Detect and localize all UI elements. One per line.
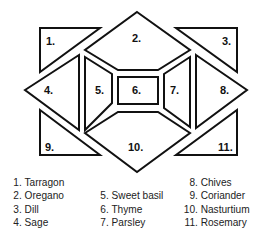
bed-number-label: 2. — [132, 32, 141, 44]
legend-item: 3. Dill — [13, 203, 64, 216]
legend-plant-name: Dill — [25, 203, 39, 215]
legend-column-2: 5. Sweet basil 6. Thyme 7. Parsley — [100, 176, 172, 229]
legend-item: 7. Parsley — [100, 216, 163, 229]
legend-plant-name: Parsley — [112, 216, 146, 228]
bed-number-label: 3. — [222, 35, 231, 47]
legend-number: 4. — [13, 216, 22, 229]
legend-item: 11. Rosemary — [182, 216, 250, 229]
legend-plant-name: Nasturtium — [201, 203, 250, 215]
legend-number: 7. — [100, 216, 109, 229]
legend-plant-name: Tarragon — [24, 176, 64, 188]
legend-plant-name: Sweet basil — [112, 189, 164, 201]
legend-item: 6. Thyme — [100, 203, 163, 216]
legend-number: 2. — [13, 189, 22, 202]
legend-item: 1. Tarragon — [13, 176, 64, 189]
legend-number: 8. — [182, 176, 198, 189]
legend-plant-name: Thyme — [111, 203, 142, 215]
garden-bed-10: 10. — [85, 112, 190, 172]
bed-number-label: 1. — [46, 35, 55, 47]
legend-plant-name: Chives — [201, 176, 232, 188]
garden-bed-7: 7. — [164, 57, 190, 127]
legend-item: 9. Coriander — [182, 189, 250, 202]
legend-plant-name: Coriander — [201, 189, 245, 201]
bed-number-label: 10. — [128, 141, 143, 153]
legend-number: 11. — [182, 216, 198, 229]
legend-number: 6. — [100, 203, 109, 216]
legend-item: 2. Oregano — [13, 189, 64, 202]
garden-bed-2: 2. — [85, 12, 190, 70]
garden-bed-8: 8. — [196, 55, 247, 128]
plant-legend: 1. Tarragon 2. Oregano 3. Dill 4. Sage 5… — [0, 176, 265, 245]
bed-number-label: 7. — [170, 84, 179, 96]
legend-plant-name: Oregano — [25, 189, 64, 201]
garden-bed-6: 6. — [118, 77, 158, 104]
legend-item — [100, 176, 163, 189]
legend-number: 1. — [13, 176, 22, 189]
legend-plant-name: Rosemary — [201, 216, 247, 228]
bed-number-label: 8. — [220, 84, 229, 96]
legend-column-1: 1. Tarragon 2. Oregano 3. Dill 4. Sage — [13, 176, 71, 229]
bed-number-label: 6. — [132, 84, 141, 96]
legend-item: 10. Nasturtium — [182, 203, 250, 216]
legend-number: 3. — [13, 203, 22, 216]
legend-item: 5. Sweet basil — [100, 189, 163, 202]
legend-column-3: 8. Chives 9. Coriander 10. Nasturtium 11… — [182, 176, 259, 229]
legend-number: 9. — [182, 189, 198, 202]
legend-item: 4. Sage — [13, 216, 64, 229]
legend-item: 8. Chives — [182, 176, 250, 189]
bed-number-label: 4. — [44, 84, 53, 96]
legend-number: 5. — [100, 189, 109, 202]
legend-number: 10. — [182, 203, 198, 216]
legend-plant-name: Sage — [25, 216, 49, 228]
garden-bed-diagram: 1.2.3.4.5.6.7.8.9.10.11. — [0, 0, 265, 180]
bed-number-label: 9. — [45, 141, 54, 153]
bed-number-label: 5. — [95, 84, 104, 96]
bed-number-label: 11. — [218, 141, 233, 153]
